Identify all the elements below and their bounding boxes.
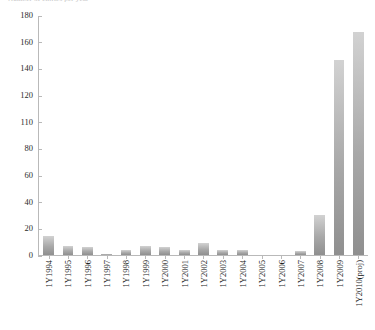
x-axis-tick-label: 1Y1997 <box>102 260 111 287</box>
bar[interactable] <box>334 60 345 255</box>
x-axis-tick-label: 1Y1999 <box>141 260 150 287</box>
x-axis-tick-label: 1Y2007 <box>297 260 306 287</box>
y-axis-tick-label: 60 <box>25 170 34 181</box>
x-axis-tick-mark <box>223 255 224 259</box>
y-axis-tick-label: 80 <box>25 143 34 154</box>
x-axis-tick-label: 1Y1998 <box>122 260 131 287</box>
y-axis-tick-label: 120 <box>20 90 33 101</box>
x-axis-labels: 1Y19941Y19951Y19961Y19971Y19981Y19991Y20… <box>39 260 369 328</box>
plot-area: 020406080110120140160180 <box>38 16 368 256</box>
x-axis-tick-mark <box>107 255 108 259</box>
x-axis-tick-label: 1Y2008 <box>316 260 325 287</box>
bar-slot <box>310 16 329 255</box>
x-axis-tick-label: 1Y1995 <box>64 260 73 287</box>
x-axis-tick-mark <box>339 255 340 259</box>
x-axis-tick-mark <box>49 255 50 259</box>
x-axis-label-slot: 1Y2007 <box>291 260 310 328</box>
x-axis-tick-mark <box>87 255 88 259</box>
bars-layer <box>39 16 368 255</box>
y-axis-tick-label: 140 <box>20 63 33 74</box>
x-axis-tick-mark <box>300 255 301 259</box>
x-axis-tick-label: 1Y2006 <box>277 260 286 287</box>
x-axis-label-slot: 1Y1999 <box>136 260 155 328</box>
y-axis-tick-label: 160 <box>20 37 33 48</box>
y-axis-tick-label: 20 <box>25 223 34 234</box>
x-axis-label-slot: 1Y2010(proj) <box>350 260 369 328</box>
bar[interactable] <box>159 247 170 255</box>
x-axis-tick-label: 1Y2004 <box>238 260 247 287</box>
bar-chart: Number of entries per year 0204060801101… <box>0 0 375 330</box>
x-axis-tick-label: 1Y1994 <box>44 260 53 287</box>
x-axis-label-slot: 1Y2000 <box>155 260 174 328</box>
x-axis-tick-mark <box>262 255 263 259</box>
x-axis-tick-mark <box>281 255 282 259</box>
x-axis-label-slot: 1Y2003 <box>214 260 233 328</box>
x-axis-label-slot: 1Y2001 <box>175 260 194 328</box>
x-axis-tick-label: 1Y2003 <box>219 260 228 287</box>
bar-slot <box>213 16 232 255</box>
y-axis-tick-label: 110 <box>21 117 33 128</box>
bar-slot <box>329 16 348 255</box>
bar-slot <box>116 16 135 255</box>
y-axis-tick-label: 180 <box>20 10 33 21</box>
x-axis-tick-label: 1Y2002 <box>199 260 208 287</box>
y-axis-tick-label: 40 <box>25 197 34 208</box>
x-axis-tick-label: 1Y2005 <box>258 260 267 287</box>
x-axis-tick-mark <box>184 255 185 259</box>
x-axis-tick-label: 1Y2009 <box>335 260 344 287</box>
x-axis-label-slot: 1Y2005 <box>253 260 272 328</box>
bar-slot <box>271 16 290 255</box>
x-axis-label-slot: 1Y1994 <box>39 260 58 328</box>
x-axis-tick-mark <box>358 255 359 259</box>
bar-slot <box>233 16 252 255</box>
x-axis-label-slot: 1Y2008 <box>311 260 330 328</box>
x-axis-tick-mark <box>165 255 166 259</box>
x-axis-tick-label: 1Y2010(proj) <box>355 260 364 307</box>
x-axis-label-slot: 1Y1995 <box>58 260 77 328</box>
bar[interactable] <box>82 247 93 255</box>
x-axis-tick-mark <box>68 255 69 259</box>
x-axis-tick-mark <box>320 255 321 259</box>
bar-slot <box>78 16 97 255</box>
x-axis-tick-mark <box>126 255 127 259</box>
bar-slot <box>58 16 77 255</box>
x-axis-tick-mark <box>203 255 204 259</box>
x-axis-label-slot: 1Y2009 <box>330 260 349 328</box>
y-axis-tick-label: 0 <box>29 250 33 261</box>
bar-slot <box>174 16 193 255</box>
x-axis-label-slot: 1Y1997 <box>97 260 116 328</box>
bar[interactable] <box>198 243 209 255</box>
chart-title: Number of entries per year <box>8 0 89 2</box>
bar[interactable] <box>43 236 54 255</box>
x-axis-tick-mark <box>242 255 243 259</box>
bar-slot <box>349 16 368 255</box>
bar-slot <box>291 16 310 255</box>
y-axis-tick-mark <box>38 256 42 257</box>
x-axis-label-slot: 1Y1996 <box>78 260 97 328</box>
x-axis-label-slot: 1Y2002 <box>194 260 213 328</box>
bar[interactable] <box>140 246 151 255</box>
x-axis-tick-mark <box>145 255 146 259</box>
bar[interactable] <box>353 32 364 255</box>
bar-slot <box>194 16 213 255</box>
bar-slot <box>39 16 58 255</box>
bar-slot <box>97 16 116 255</box>
x-axis-tick-label: 1Y2000 <box>161 260 170 287</box>
bar-slot <box>136 16 155 255</box>
x-axis-label-slot: 1Y2004 <box>233 260 252 328</box>
x-axis-label-slot: 1Y1998 <box>117 260 136 328</box>
bar-slot <box>252 16 271 255</box>
bar-slot <box>155 16 174 255</box>
bar[interactable] <box>63 246 74 255</box>
x-axis-tick-label: 1Y1996 <box>83 260 92 287</box>
x-axis-label-slot: 1Y2006 <box>272 260 291 328</box>
bar[interactable] <box>314 215 325 255</box>
x-axis-tick-label: 1Y2001 <box>180 260 189 287</box>
